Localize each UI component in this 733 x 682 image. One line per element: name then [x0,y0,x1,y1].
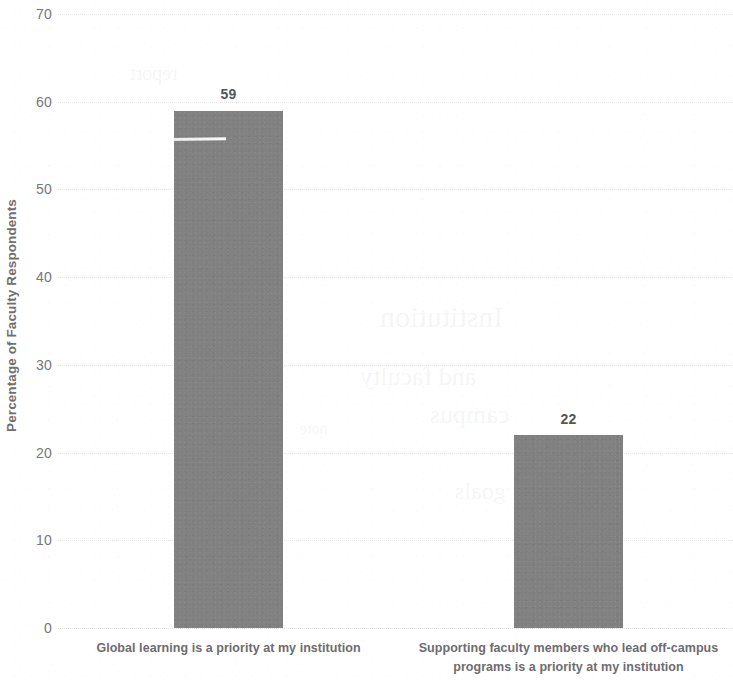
bar-value-label: 22 [561,411,577,427]
x-axis-category-label: Supporting faculty members who lead off-… [399,639,733,677]
y-axis-tick-label: 70 [26,6,52,22]
bar-value-label: 59 [221,86,237,102]
y-axis-title: Percentage of Faculty Respondents [0,0,22,630]
y-axis-tick-label: 10 [26,532,52,548]
gridline [58,628,733,629]
y-axis-tick-label: 60 [26,94,52,110]
bar [514,435,623,628]
y-axis-tick-label: 30 [26,357,52,373]
x-axis-category-label: Global learning is a priority at my inst… [59,639,399,658]
x-axis-category-line: Global learning is a priority at my inst… [59,639,399,658]
y-axis-tick-label: 0 [26,620,52,636]
bar [174,111,283,629]
x-axis-category-line: programs is a priority at my institution [399,658,733,677]
y-axis-tick-label: 20 [26,445,52,461]
plot-area [58,14,733,628]
y-axis-title-text: Percentage of Faculty Respondents [4,199,19,432]
y-axis-tick-label: 50 [26,181,52,197]
bar-chart: Percentage of Faculty Respondents 706050… [0,0,733,682]
y-axis-tick-label: 40 [26,269,52,285]
x-axis-category-line: Supporting faculty members who lead off-… [399,639,733,658]
